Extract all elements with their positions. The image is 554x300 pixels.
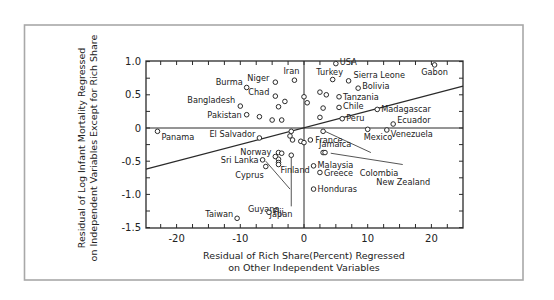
point-label: Cyprus: [235, 170, 264, 180]
point-label: Honduras: [318, 184, 357, 194]
svg-text:-1.5: -1.5: [121, 222, 141, 233]
x-axis-label-line-1: Residual of Rich Share(Percent) Regresse…: [203, 250, 405, 262]
point-label: Bangladesh: [187, 95, 235, 105]
point-label: El Salvador: [209, 129, 256, 139]
point-label: Jamaica: [318, 139, 351, 149]
svg-text:20: 20: [425, 233, 438, 244]
point-label: Fiji: [273, 207, 284, 217]
point-label: Peru: [346, 113, 364, 123]
svg-text:-0.5: -0.5: [121, 156, 141, 167]
svg-text:-10: -10: [232, 233, 248, 244]
point-label: Turkey: [315, 67, 343, 77]
svg-text:-1.0: -1.0: [121, 189, 141, 200]
point-label: Burma: [216, 77, 243, 87]
point-label: Madagascar: [381, 104, 431, 114]
point-label: Gabon: [421, 67, 448, 77]
svg-text:-20: -20: [168, 233, 184, 244]
svg-text:0: 0: [135, 123, 141, 134]
point-label: Venezuela: [391, 129, 433, 139]
point-label: Sri Lanka: [221, 155, 259, 165]
point-label: Chad: [248, 87, 269, 97]
y-axis-label: Residual of Log Infant Mortality Regress…: [76, 35, 100, 262]
y-axis-label-line-2: on Independent Variables Except for Rich…: [88, 35, 100, 262]
y-axis-ticks: 1.00.50-0.5-1.0-1.5: [121, 56, 463, 233]
point-label: New Zealand: [376, 177, 430, 187]
point-label: Greece: [324, 168, 353, 178]
svg-text:0.5: 0.5: [125, 89, 141, 100]
point-label: Tanzania: [342, 92, 379, 102]
point-label: Sierra Leone: [354, 70, 405, 80]
point-label: Ecuador: [397, 115, 431, 125]
point-label: USA: [340, 57, 357, 67]
y-axis-label-line-1: Residual of Log Infant Mortality Regress…: [76, 35, 88, 262]
point-label: Taiwan: [204, 209, 233, 219]
x-axis-label: Residual of Rich Share(Percent) Regresse…: [203, 250, 405, 274]
point-label: Pakistan: [207, 110, 241, 120]
point-label: Mexico: [364, 132, 393, 142]
point-label: Chile: [343, 101, 364, 111]
svg-text:10: 10: [361, 233, 374, 244]
svg-text:1.0: 1.0: [125, 56, 141, 67]
point-label: Iran: [283, 66, 299, 76]
point-label: Niger: [247, 73, 270, 83]
point-label: Finland: [281, 165, 310, 175]
data-points: USAGabonTurkeySierra LeoneIranNigerBurma…: [155, 57, 448, 221]
point-label: Panama: [161, 132, 194, 142]
x-axis-label-line-2: on Other Independent Variables: [203, 262, 405, 274]
svg-text:0: 0: [301, 233, 307, 244]
point-label: Bolivia: [362, 81, 389, 91]
